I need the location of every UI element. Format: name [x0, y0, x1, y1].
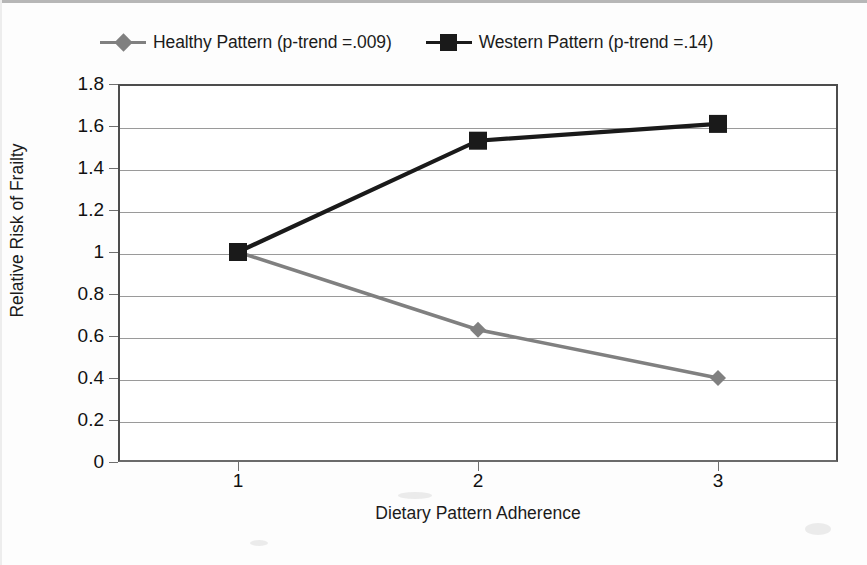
- scan-speckle: [398, 492, 432, 499]
- gridline: [120, 422, 836, 423]
- chart-figure: Healthy Pattern (p-trend =.009) Western …: [0, 0, 867, 565]
- legend-swatch-healthy: [100, 33, 146, 51]
- y-axis-tick-label: 0.2: [42, 409, 104, 431]
- x-axis-tick-label: 1: [208, 470, 268, 492]
- y-axis-tick: [109, 462, 118, 463]
- y-axis-title-text: Relative Risk of Frailty: [7, 143, 28, 317]
- y-axis-tick-label: 1.8: [42, 73, 104, 95]
- scan-speckle: [250, 540, 268, 546]
- x-axis-tick-label: 2: [448, 470, 508, 492]
- legend-entry-western: Western Pattern (p-trend =.14): [426, 32, 714, 53]
- y-axis-tick-label: 1.2: [42, 199, 104, 221]
- gridline: [120, 296, 836, 297]
- y-axis-tick: [109, 294, 118, 295]
- gridline: [120, 170, 836, 171]
- y-axis-tick-labels: 1.81.61.41.210.80.60.40.20: [36, 0, 104, 565]
- y-axis-tick-label: 0.8: [42, 283, 104, 305]
- y-axis-tick: [109, 84, 118, 85]
- y-axis-tick: [109, 420, 118, 421]
- chart-legend: Healthy Pattern (p-trend =.009) Western …: [100, 28, 713, 56]
- y-axis-tick-label: 0.6: [42, 325, 104, 347]
- y-axis-tick-label: 0.4: [42, 367, 104, 389]
- square-marker-icon: [440, 34, 457, 51]
- y-axis-tick: [109, 210, 118, 211]
- plot-area: [118, 84, 838, 462]
- scan-speckle: [805, 523, 831, 535]
- y-axis-tick: [109, 336, 118, 337]
- scan-border-top: [0, 0, 867, 3]
- legend-label-western: Western Pattern (p-trend =.14): [479, 32, 714, 53]
- y-axis-tick: [109, 252, 118, 253]
- y-axis-title: Relative Risk of Frailty: [0, 0, 34, 460]
- legend-entry-healthy: Healthy Pattern (p-trend =.009): [100, 32, 392, 53]
- y-axis-tick: [109, 378, 118, 379]
- legend-label-healthy: Healthy Pattern (p-trend =.009): [153, 32, 392, 53]
- y-axis-tick: [109, 126, 118, 127]
- y-axis-tick: [109, 168, 118, 169]
- y-axis-tick-label: 1: [42, 241, 104, 263]
- gridline: [120, 254, 836, 255]
- y-axis-tick-label: 1.6: [42, 115, 104, 137]
- y-axis-tick-label: 0: [42, 451, 104, 473]
- diamond-marker-icon: [114, 33, 132, 51]
- x-axis-tick-label: 3: [688, 470, 748, 492]
- legend-swatch-western: [426, 33, 472, 51]
- gridline: [120, 338, 836, 339]
- x-axis-title: Dietary Pattern Adherence: [118, 503, 838, 524]
- gridline: [120, 128, 836, 129]
- gridline: [120, 380, 836, 381]
- y-axis-tick-label: 1.4: [42, 157, 104, 179]
- gridline: [120, 212, 836, 213]
